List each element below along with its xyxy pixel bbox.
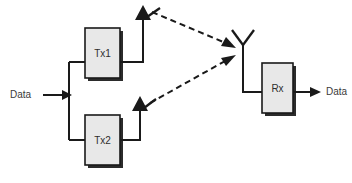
diagram-canvas: Tx1 Tx2: [0, 0, 352, 183]
tx1-antenna-feed: [120, 14, 143, 62]
link-tx2-rx-line: [150, 60, 227, 103]
tx1-label: Tx1: [94, 48, 111, 59]
rx-antenna: [232, 30, 263, 92]
wireless-link-tx1-rx: [152, 12, 236, 48]
output-arrow-head: [310, 87, 321, 97]
rx-label: Rx: [271, 83, 283, 94]
output-data-label: Data: [326, 86, 348, 97]
rx-antenna-feed: [243, 45, 263, 92]
tx2-label: Tx2: [94, 135, 111, 146]
link-tx1-rx-arrow-head: [221, 37, 236, 48]
tx1-antenna-arrow-head: [135, 5, 151, 20]
link-tx2-rx-arrow-head: [221, 55, 236, 66]
output-branch: [293, 87, 321, 97]
input-arrow-head: [62, 90, 72, 100]
tx2-block[interactable]: Tx2: [85, 115, 123, 168]
wireless-link-tx2-rx: [150, 55, 236, 103]
rx-block[interactable]: Rx: [262, 63, 296, 116]
input-branch: [43, 62, 86, 140]
input-data-label: Data: [10, 89, 32, 100]
mimo-diagram: Tx1 Tx2: [0, 0, 352, 183]
rx-antenna-right-arm: [243, 30, 254, 45]
rx-antenna-left-arm: [232, 30, 243, 45]
link-tx1-rx-line: [152, 12, 228, 44]
tx1-block[interactable]: Tx1: [85, 28, 123, 81]
tx2-antenna-arrow-head: [132, 96, 148, 111]
